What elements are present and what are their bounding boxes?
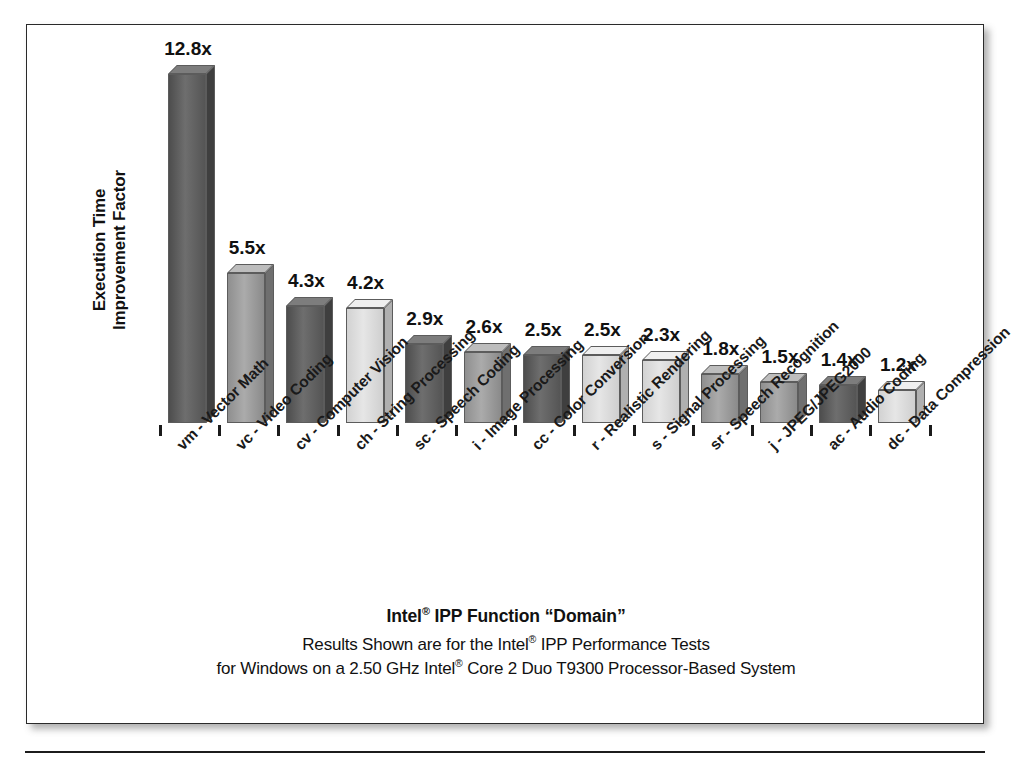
- axis-tick: [633, 425, 636, 436]
- axis-tick: [692, 425, 695, 436]
- caption-line-2: Results Shown are for the Intel® IPP Per…: [27, 632, 985, 656]
- axis-tick: [455, 425, 458, 436]
- bar-value-label: 5.5x: [213, 237, 281, 259]
- axis-tick: [929, 425, 932, 436]
- caption-line-3-a: for Windows on a 2.50 GHz Intel: [217, 659, 456, 678]
- bar-value-label: 4.2x: [332, 272, 400, 294]
- bottom-divider: [25, 751, 985, 753]
- caption-title-post: IPP Function “Domain”: [430, 606, 626, 626]
- bar[interactable]: [168, 74, 206, 423]
- axis-tick: [751, 425, 754, 436]
- axis-tick: [277, 425, 280, 436]
- caption-line-3-b: Core 2 Duo T9300 Processor-Based System: [463, 659, 796, 678]
- registered-mark-icon: ®: [455, 657, 463, 669]
- plot-area: Execution Time Improvement Factor 12.8x5…: [27, 25, 985, 725]
- axis-tick: [396, 425, 399, 436]
- bar-value-label: 4.3x: [272, 270, 340, 292]
- chart-caption: Intel® IPP Function “Domain” Results Sho…: [27, 605, 985, 680]
- axis-tick: [337, 425, 340, 436]
- axis-tick: [573, 425, 576, 436]
- bar-front-face: [168, 74, 206, 423]
- y-axis-title-line-1: Execution Time: [90, 125, 110, 375]
- axis-tick: [869, 425, 872, 436]
- bar-value-label: 12.8x: [154, 38, 222, 60]
- registered-mark-icon: ®: [422, 605, 430, 617]
- registered-mark-icon: ®: [529, 633, 537, 645]
- bar-value-label: 2.9x: [391, 308, 459, 330]
- caption-title: Intel® IPP Function “Domain”: [27, 605, 985, 627]
- caption-line-3: for Windows on a 2.50 GHz Intel® Core 2 …: [27, 656, 985, 680]
- bar-value-label: 2.5x: [509, 319, 577, 341]
- axis-tick: [514, 425, 517, 436]
- figure-frame: Execution Time Improvement Factor 12.8x5…: [26, 24, 984, 724]
- bar-value-label: 2.5x: [568, 319, 636, 341]
- y-axis-title: Execution Time Improvement Factor: [90, 125, 130, 375]
- axis-tick: [159, 425, 162, 436]
- axis-tick: [810, 425, 813, 436]
- caption-title-pre: Intel: [386, 606, 421, 626]
- caption-line-2-a: Results Shown are for the Intel: [302, 634, 528, 653]
- y-axis-title-line-2: Improvement Factor: [110, 125, 130, 375]
- axis-tick: [218, 425, 221, 436]
- caption-line-2-b: IPP Performance Tests: [536, 634, 710, 653]
